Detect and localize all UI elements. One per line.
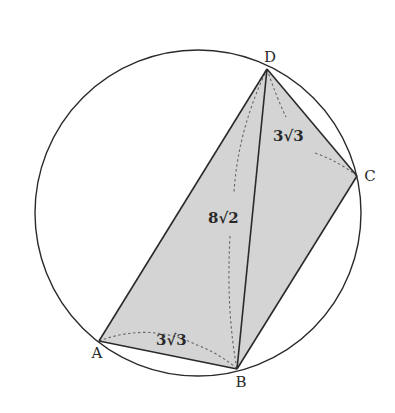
cyclic-quadrilateral-diagram: A B C D 3√3 8√2 3√3 xyxy=(0,0,395,413)
vertex-label-a: A xyxy=(91,344,103,362)
vertex-label-b: B xyxy=(235,373,246,391)
vertex-label-d: D xyxy=(264,48,276,66)
measurement-label-dc: 3√3 xyxy=(273,127,304,145)
vertex-label-c: C xyxy=(364,167,375,185)
measurement-label-db: 8√2 xyxy=(208,209,239,227)
measurement-label-ab: 3√3 xyxy=(156,331,187,349)
